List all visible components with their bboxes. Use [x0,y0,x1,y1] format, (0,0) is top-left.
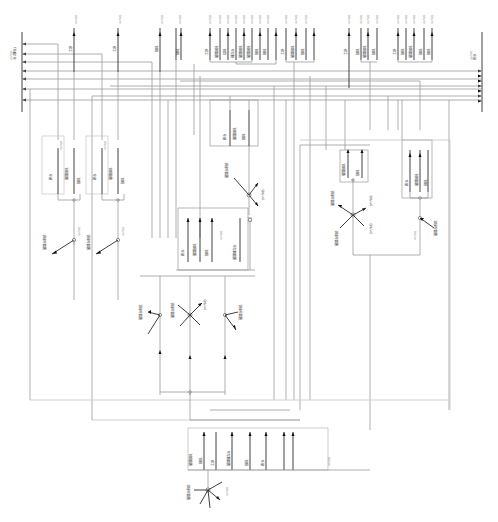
svg-text:循環水系統: 循環水系統 [186,484,191,500]
svg-text:(m³/d): (m³/d) [430,15,434,24]
svg-text:(m³/d): (m³/d) [160,15,164,24]
svg-text:(m³/d): (m³/d) [347,15,351,24]
svg-text:(m³/d): (m³/d) [412,15,416,24]
svg-text:損耗: 損耗 [418,48,423,55]
svg-text:循環水系統: 循環水系統 [330,190,335,206]
svg-text:(m³/d): (m³/d) [59,141,63,150]
svg-text:(m³/d): (m³/d) [103,141,107,150]
svg-text:循環損耗: 循環損耗 [214,45,219,58]
svg-text:新水: 新水 [222,133,227,140]
svg-text:循環損耗: 循環損耗 [188,453,193,466]
svg-text:循環水系統: 循環水系統 [238,304,243,320]
svg-text:損耗: 損耗 [423,179,428,186]
svg-text:(m³/d): (m³/d) [218,15,222,24]
svg-text:(m³/d): (m³/d) [234,15,238,24]
svg-text:(m³/d): (m³/d) [261,189,265,200]
svg-text:(m³/d): (m³/d) [208,15,212,24]
bottom-process-unit: 循環損耗 損耗 工序 循環補充水 損耗 新水 (m³/d) 循環水系統 (m³/… [186,410,370,508]
svg-text:循環損耗: 循環損耗 [290,45,295,58]
svg-text:循環損耗: 循環損耗 [108,167,113,180]
svg-text:工序: 工序 [392,48,397,55]
left-bus-value: (m³/d) [9,51,13,60]
svg-text:循環損耗: 循環損耗 [232,127,237,140]
process-unit-5: 新水 循環損耗 損耗 循環水系統 (m³/d) [353,140,438,255]
svg-text:(m³/d): (m³/d) [284,15,288,24]
svg-text:工序: 工序 [112,45,117,52]
trunk-lines [22,44,482,400]
process-unit-1: 新水 循環損耗 損耗 (m³/d) 循環水系統 (m³/d) [42,136,81,300]
svg-text:(m³/d): (m³/d) [242,15,246,24]
svg-text:損耗: 損耗 [400,48,405,55]
right-bus-value: (m³/d) [469,51,473,60]
svg-text:循環損耗: 循環損耗 [362,45,367,58]
svg-text:損耗: 損耗 [175,48,180,55]
svg-text:(m³/d): (m³/d) [369,223,373,234]
svg-text:(m³/d): (m³/d) [203,299,207,310]
flow-diagram: 水 (取水) (m³/d) 排水 (m³/d) [0,0,498,522]
svg-text:(m³/d): (m³/d) [77,227,81,236]
svg-text:循環損耗: 循環損耗 [238,45,243,58]
svg-text:循環水系統: 循環水系統 [138,304,143,320]
svg-text:(m³/d): (m³/d) [304,15,308,24]
process-unit-6: 循環損耗 損耗 循環水系統 (m³/d) 循環水系統 (m³/d) [300,145,373,430]
svg-text:(m³/d): (m³/d) [266,15,270,24]
svg-text:(m³/d): (m³/d) [294,15,298,24]
svg-text:損耗: 損耗 [120,177,125,184]
svg-text:(m³/d): (m³/d) [327,457,331,466]
svg-text:(m³/d): (m³/d) [250,15,254,24]
svg-text:循環水系統: 循環水系統 [224,162,229,178]
svg-text:損耗: 損耗 [300,48,305,55]
process-unit-3: 新水 循環損耗 損耗 循環補充水 (m³/d) [140,208,255,276]
svg-text:損耗: 損耗 [204,249,209,256]
svg-text:工序: 工序 [210,459,215,466]
svg-text:損耗: 損耗 [244,459,249,466]
svg-text:新水: 新水 [404,179,409,186]
svg-text:(m³/d): (m³/d) [74,15,78,24]
svg-text:損耗: 損耗 [262,48,267,55]
svg-text:損耗: 損耗 [154,45,159,52]
svg-text:(m³/d): (m³/d) [178,15,182,24]
svg-text:循環水系統: 循環水系統 [334,230,339,246]
svg-text:循環水系統: 循環水系統 [42,234,47,250]
svg-text:损耗: 损耗 [222,48,227,55]
svg-text:(m³/d): (m³/d) [369,195,373,206]
svg-text:損耗: 損耗 [241,133,246,140]
svg-text:循環水系統: 循環水系統 [86,234,91,250]
svg-text:損耗: 損耗 [76,177,81,184]
svg-text:(m³/d): (m³/d) [366,15,370,24]
svg-text:循環損耗: 循環損耗 [414,173,419,186]
svg-text:(m³/d): (m³/d) [118,15,122,24]
svg-text:循環損耗: 循環損耗 [341,163,346,176]
svg-text:補充水: 補充水 [230,48,235,58]
junction-node [73,199,75,201]
svg-text:(m³/d): (m³/d) [404,15,408,24]
svg-text:新水: 新水 [48,173,53,180]
svg-text:(m³/d): (m³/d) [396,15,400,24]
svg-text:(m³/d): (m³/d) [225,487,229,496]
svg-text:損耗: 損耗 [355,48,360,55]
svg-text:工序: 工序 [280,48,285,55]
lower-hubs: 循環水系統 循環水系統 (m³/d) 循環水系統 [138,276,243,420]
svg-text:工序: 工序 [204,48,209,55]
svg-text:循環補充水: 循環補充水 [226,450,231,466]
svg-text:(m³/d): (m³/d) [121,227,125,236]
svg-text:循環水系統: 循環水系統 [433,220,438,236]
svg-text:損耗: 損耗 [371,48,376,55]
svg-text:循環損耗: 循環損耗 [192,243,197,256]
svg-text:(m³/d): (m³/d) [375,15,379,24]
process-unit-4: 新水 循環損耗 損耗 循環水系統 (m³/d) [210,100,265,215]
svg-text:循環補充水: 循環補充水 [232,244,237,260]
svg-text:工序: 工序 [343,48,348,55]
svg-text:(m³/d): (m³/d) [422,15,426,24]
svg-text:(m³/d): (m³/d) [258,15,262,24]
svg-text:損耗: 損耗 [426,48,431,55]
svg-text:(m³/d): (m³/d) [226,15,230,24]
svg-text:(m³/d): (m³/d) [359,15,363,24]
svg-text:新水: 新水 [260,459,265,466]
svg-text:循環損耗: 循環損耗 [246,45,251,58]
diagram-svg: 水 (取水) (m³/d) 排水 (m³/d) [0,0,498,522]
svg-text:循環水系統: 循環水系統 [170,302,175,318]
top-outlet-labels: 工序 (m³/d) 工序 (m³/d) 損耗 (m³/d) 損耗 (m³/d) … [68,15,434,58]
svg-text:循環損耗: 循環損耗 [408,45,413,58]
svg-text:損耗: 損耗 [254,48,259,55]
